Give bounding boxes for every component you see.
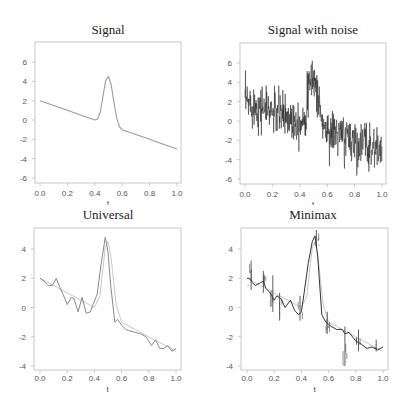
x-tick-label: 0.2 bbox=[62, 374, 74, 383]
plot-minimax: -4-20240.00.20.40.60.81.0t bbox=[205, 205, 409, 408]
y-tick-label: -2 bbox=[226, 333, 234, 342]
y-tick-label: -4 bbox=[226, 362, 234, 371]
plot-series bbox=[245, 61, 382, 176]
y-tick-label: -4 bbox=[20, 155, 28, 164]
x-tick-label: 0.8 bbox=[143, 374, 155, 383]
x-tick-label: 0.4 bbox=[89, 189, 101, 198]
panel-signal: Signal -6-4-202460.00.20.40.60.81.0t bbox=[0, 0, 205, 205]
y-tick-label: 2 bbox=[22, 274, 27, 283]
x-tick-label: 1.0 bbox=[377, 374, 389, 383]
panel-universal: Universal -4-20240.00.20.40.60.81.0t bbox=[0, 205, 205, 408]
plot-series bbox=[40, 77, 177, 150]
y-tick-label: 6 bbox=[228, 59, 233, 68]
y-tick-label: 4 bbox=[22, 245, 27, 254]
plot-signal-with-noise: -6-4-202460.00.20.40.60.81.0t bbox=[205, 0, 409, 205]
x-axis-label: t bbox=[313, 385, 316, 394]
panel-signal-with-noise: Signal with noise -6-4-202460.00.20.40.6… bbox=[205, 0, 409, 205]
x-tick-label: 0.0 bbox=[241, 374, 253, 383]
y-tick-label: 2 bbox=[228, 98, 233, 107]
y-tick-label: -6 bbox=[20, 174, 28, 183]
x-tick-label: 0.4 bbox=[296, 374, 308, 383]
y-tick-label: 0 bbox=[23, 116, 28, 125]
x-tick-label: 0.6 bbox=[322, 190, 334, 199]
x-tick-label: 1.0 bbox=[170, 374, 182, 383]
y-tick-label: 6 bbox=[23, 58, 28, 67]
plot-frame bbox=[240, 43, 386, 184]
y-tick-label: -2 bbox=[225, 136, 233, 145]
plot-series bbox=[40, 237, 176, 351]
x-tick-label: 0.6 bbox=[323, 374, 335, 383]
plot-universal: -4-20240.00.20.40.60.81.0t bbox=[0, 205, 205, 408]
y-tick-label: 2 bbox=[23, 97, 28, 106]
x-tick-label: 0.8 bbox=[144, 189, 156, 198]
x-tick-label: 1.0 bbox=[376, 190, 388, 199]
x-tick-label: 0.4 bbox=[89, 374, 101, 383]
y-tick-label: 2 bbox=[229, 274, 234, 283]
x-axis-label: t bbox=[106, 385, 109, 394]
y-tick-label: -4 bbox=[225, 156, 233, 165]
plot-frame bbox=[35, 42, 181, 183]
y-tick-label: -2 bbox=[20, 135, 28, 144]
plot-frame bbox=[241, 228, 388, 370]
x-tick-label: 0.2 bbox=[269, 374, 281, 383]
y-tick-label: 0 bbox=[229, 304, 234, 313]
y-tick-label: -4 bbox=[19, 362, 27, 371]
plot-series bbox=[247, 230, 383, 366]
y-tick-label: 4 bbox=[228, 78, 233, 87]
x-tick-label: 0.2 bbox=[62, 189, 74, 198]
plot-signal: -6-4-202460.00.20.40.60.81.0t bbox=[0, 0, 205, 205]
x-tick-label: 0.6 bbox=[116, 374, 128, 383]
x-tick-label: 0.4 bbox=[294, 190, 306, 199]
y-tick-label: 0 bbox=[22, 304, 27, 313]
x-tick-label: 0.6 bbox=[117, 189, 129, 198]
y-tick-label: 4 bbox=[229, 245, 234, 254]
x-tick-label: 0.2 bbox=[267, 190, 279, 199]
x-tick-label: 0.8 bbox=[349, 190, 361, 199]
y-tick-label: 0 bbox=[228, 117, 233, 126]
x-tick-label: 0.8 bbox=[350, 374, 362, 383]
y-tick-label: 4 bbox=[23, 77, 28, 86]
x-tick-label: 0.0 bbox=[34, 374, 46, 383]
y-tick-label: -6 bbox=[225, 175, 233, 184]
x-tick-label: 1.0 bbox=[171, 189, 183, 198]
panel-minimax: Minimax -4-20240.00.20.40.60.81.0t bbox=[205, 205, 409, 408]
y-tick-label: -2 bbox=[19, 333, 27, 342]
x-tick-label: 0.0 bbox=[34, 189, 46, 198]
x-tick-label: 0.0 bbox=[239, 190, 251, 199]
